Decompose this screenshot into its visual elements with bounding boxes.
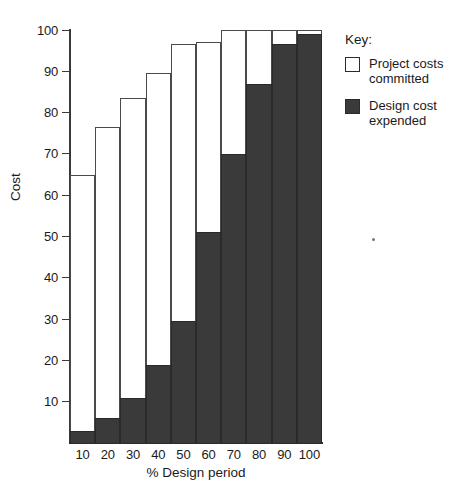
y-axis-tick-label: 70 [44,147,58,160]
bar-group [196,30,221,443]
legend-label-line-2: committed [369,71,429,86]
chart-legend: Key: Project costs committed Design cost… [345,32,453,140]
x-axis-tick-label: 100 [287,448,332,461]
bar-chart-figure: 102030405060708090100 Cost 1020304050607… [0,0,454,499]
y-axis-tick [62,277,70,278]
bar-project-costs-committed [120,98,145,443]
x-axis-title: % Design period [70,466,322,480]
bar-group [70,30,95,443]
y-axis-tick-label: 10 [44,395,58,408]
legend-entry-label: Project costs committed [369,56,443,86]
legend-title: Key: [345,32,453,47]
bar-design-cost-expended [196,232,221,443]
bar-group [246,30,271,443]
bar-group [272,30,297,443]
y-axis-tick [62,401,70,402]
white-square-icon [345,57,360,72]
bar-group [171,30,196,443]
y-axis-title: Cost [9,173,23,201]
bar-design-cost-expended [171,321,196,443]
y-axis-tick-label: 50 [44,230,58,243]
y-axis-tick-label: 100 [37,24,58,37]
y-axis-tick-label: 60 [44,189,58,202]
legend-entry-label: Design cost expended [369,98,437,128]
bar-design-cost-expended [297,34,322,443]
y-axis-tick [62,195,70,196]
y-axis-tick-label: 20 [44,354,58,367]
bar-project-costs-committed [95,127,120,443]
legend-entry-project-costs-committed: Project costs committed [345,56,453,86]
legend-label-line-1: Project costs [369,56,443,71]
bar-design-cost-expended [246,84,271,443]
bar-design-cost-expended [70,431,95,443]
scan-artifact-speck [372,238,375,241]
y-axis-tick [62,319,70,320]
legend-label-line-1: Design cost [369,98,437,113]
bar-group [95,30,120,443]
bar-group [297,30,322,443]
y-axis-tick-label: 90 [44,65,58,78]
y-axis-tick-label: 40 [44,271,58,284]
y-axis-tick-label: 80 [44,106,58,119]
bar-project-costs-committed [70,175,95,443]
bar-design-cost-expended [272,44,297,443]
bar-group [221,30,246,443]
bar-group [146,30,171,443]
bar-group [120,30,145,443]
y-axis-tick [62,71,70,72]
bar-design-cost-expended [221,154,246,443]
y-axis-tick-label: 30 [44,313,58,326]
bar-design-cost-expended [95,418,120,443]
bar-design-cost-expended [120,398,145,443]
y-axis-tick [62,360,70,361]
y-axis-tick [62,112,70,113]
y-axis-tick [62,30,70,31]
bar-design-cost-expended [146,365,171,443]
y-axis-tick [62,236,70,237]
y-axis-tick [62,153,70,154]
dark-square-icon [345,99,360,114]
plot-area [70,30,322,443]
legend-entry-design-cost-expended: Design cost expended [345,98,453,128]
legend-label-line-2: expended [369,113,426,128]
